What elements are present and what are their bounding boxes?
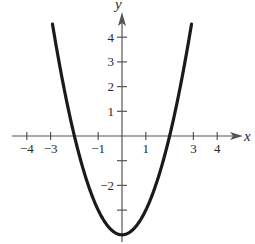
y-tick-label: 1: [108, 104, 115, 119]
x-tick-label: 3: [190, 141, 197, 156]
y-tick-label: 4: [108, 30, 115, 45]
parabola-chart: −4−3−11344321−2 x y: [0, 0, 255, 244]
axes: [12, 12, 243, 242]
x-tick-label: 4: [214, 141, 221, 156]
x-tick-label: −1: [91, 141, 105, 156]
x-tick-label: −3: [44, 141, 58, 156]
y-tick-label: 2: [108, 79, 115, 94]
y-tick-label: −2: [100, 178, 114, 193]
x-tick-label: −4: [20, 141, 34, 156]
x-tick-label: 1: [143, 141, 150, 156]
y-axis-label: y: [113, 0, 122, 12]
y-tick-label: 3: [108, 54, 115, 69]
x-axis-label: x: [243, 128, 251, 144]
